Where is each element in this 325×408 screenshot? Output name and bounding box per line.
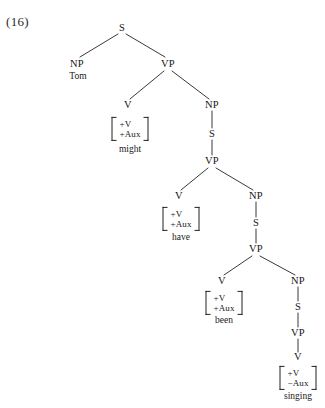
feature-matrix-been: +V+Aux: [206, 291, 243, 315]
feature-row: +Aux: [171, 219, 192, 230]
tree-edge-s1-vp1: [126, 34, 165, 57]
feature-row: +V: [214, 292, 235, 303]
syntax-tree-figure: (16) SNPVPVNPSVPVNPSVPVNPSVPV +V+Auxmigh…: [0, 0, 325, 408]
tree-node-s2: S: [209, 129, 215, 140]
terminal-word-have: have: [172, 233, 190, 243]
tree-edge-vp2-v2: [181, 168, 208, 190]
feature-rows: +V+Aux: [170, 207, 193, 231]
feature-rows: +V+Aux: [213, 291, 236, 315]
tree-node-vp4: VP: [291, 328, 305, 339]
tree-node-np1: NP: [70, 59, 84, 70]
tree-edge-vp1-v1: [130, 71, 164, 99]
feature-row: +V: [288, 367, 309, 378]
feature-row: +V: [120, 118, 141, 129]
tree-edge-vp1-np2: [172, 71, 209, 99]
left-bracket-icon: [112, 117, 117, 141]
tree-edge-vp3-np4: [260, 256, 295, 275]
tree-node-s4: S: [295, 302, 301, 313]
feature-row: −Aux: [288, 378, 309, 389]
left-bracket-icon: [163, 207, 168, 231]
right-bracket-icon: [143, 117, 148, 141]
tree-node-vp1: VP: [161, 59, 175, 70]
tree-node-v2: V: [175, 191, 183, 202]
tree-node-np2: NP: [205, 100, 219, 111]
terminal-word-tom: Tom: [69, 72, 86, 82]
tree-node-vp2: VP: [205, 156, 219, 167]
right-bracket-icon: [311, 366, 316, 390]
tree-node-v3: V: [218, 276, 226, 287]
tree-node-s3: S: [253, 218, 259, 229]
right-bracket-icon: [194, 207, 199, 231]
example-number: (16): [6, 14, 29, 30]
left-bracket-icon: [280, 366, 285, 390]
terminal-word-might: might: [119, 145, 141, 155]
right-bracket-icon: [237, 291, 242, 315]
tree-node-np3: NP: [249, 191, 263, 202]
tree-node-v4: V: [294, 352, 302, 363]
tree-edge-s1-np1: [80, 34, 118, 57]
feature-rows: +V−Aux: [287, 366, 310, 390]
terminal-word-been: been: [215, 316, 233, 326]
feature-row: +V: [171, 208, 192, 219]
terminal-word-singing: singing: [284, 392, 312, 402]
tree-edge-vp3-v3: [224, 256, 252, 275]
tree-node-s1: S: [119, 23, 125, 34]
feature-row: +Aux: [120, 129, 141, 140]
tree-node-vp3: VP: [249, 244, 263, 255]
tree-edge-vp2-np3: [216, 168, 253, 190]
feature-matrix-singing: +V−Aux: [280, 366, 317, 390]
feature-matrix-might: +V+Aux: [112, 117, 149, 141]
left-bracket-icon: [206, 291, 211, 315]
feature-matrix-have: +V+Aux: [163, 207, 200, 231]
feature-rows: +V+Aux: [119, 117, 142, 141]
tree-node-np4: NP: [291, 276, 305, 287]
tree-node-v1: V: [124, 100, 132, 111]
feature-row: +Aux: [214, 303, 235, 314]
